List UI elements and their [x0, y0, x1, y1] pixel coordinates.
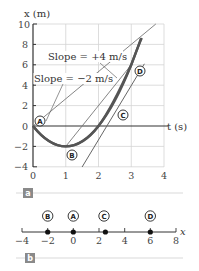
t-tick: 0: [30, 170, 36, 181]
y-tick: 6: [22, 59, 28, 70]
y-tick: −2: [14, 141, 28, 152]
t-tick-labels: 0 1 2 3 4: [30, 170, 167, 181]
panel-b-label: b: [27, 254, 33, 263]
y-tick: 10: [18, 19, 30, 30]
label-c: C: [99, 211, 109, 221]
figure: 10 8 6 4 2 0 −2 −4 0 1 2 3 4 x (m) t (s): [0, 0, 199, 271]
x-tick: 6: [147, 235, 153, 246]
svg-text:A: A: [71, 213, 77, 221]
svg-text:A: A: [37, 118, 43, 126]
label-b: B: [43, 211, 53, 221]
x-tick: −2: [41, 235, 55, 246]
point-a-marker: A: [35, 116, 45, 126]
point-b-marker: B: [67, 150, 77, 160]
y-tick: 8: [22, 39, 28, 50]
t-tick: 4: [161, 170, 167, 181]
x-tick: 2: [96, 235, 102, 246]
panel-a-label: a: [25, 189, 30, 198]
label-a: A: [68, 211, 78, 221]
x-tick: 8: [173, 235, 179, 246]
y-tick: 2: [22, 100, 28, 111]
slope-pos-annotation: Slope = +4 m/s: [48, 51, 127, 62]
svg-text:B: B: [69, 152, 74, 160]
svg-text:B: B: [45, 213, 50, 221]
grid: [33, 24, 164, 167]
x-tick-labels: −4 −2 0 2 4 6 8: [15, 235, 179, 246]
slope-neg-leader: [46, 84, 63, 121]
svg-text:D: D: [137, 68, 143, 76]
slope-neg-annotation: Slope = −2 m/s: [34, 73, 113, 84]
x-tick: 0: [70, 235, 76, 246]
y-tick: 0: [22, 121, 28, 132]
t-tick: 2: [95, 170, 101, 181]
y-axis-label: x (m): [24, 8, 50, 19]
svg-text:C: C: [101, 213, 106, 221]
y-tick: −4: [14, 161, 28, 172]
x-tick: 4: [122, 235, 128, 246]
t-tick: 3: [128, 170, 134, 181]
dot-a: [71, 229, 76, 234]
svg-text:D: D: [147, 213, 153, 221]
t-tick: 1: [63, 170, 69, 181]
number-line-panel-b: −4 −2 0 2 4 6 8 x B A C D: [15, 211, 186, 246]
x-tick: −4: [15, 235, 29, 246]
dot-d: [148, 229, 153, 234]
point-c-marker: C: [118, 110, 128, 120]
number-line-axis-label: x: [180, 226, 186, 237]
dot-b: [45, 229, 50, 234]
graph-panel-a: 10 8 6 4 2 0 −2 −4 0 1 2 3 4 x (m) t (s): [14, 8, 187, 181]
y-tick: 4: [22, 80, 28, 91]
t-axis-label: t (s): [167, 121, 187, 132]
svg-text:C: C: [120, 112, 125, 120]
y-tick-labels: 10 8 6 4 2 0 −2 −4: [14, 19, 30, 173]
point-d-marker: D: [135, 66, 145, 76]
dot-c: [103, 229, 108, 234]
label-d: D: [145, 211, 155, 221]
